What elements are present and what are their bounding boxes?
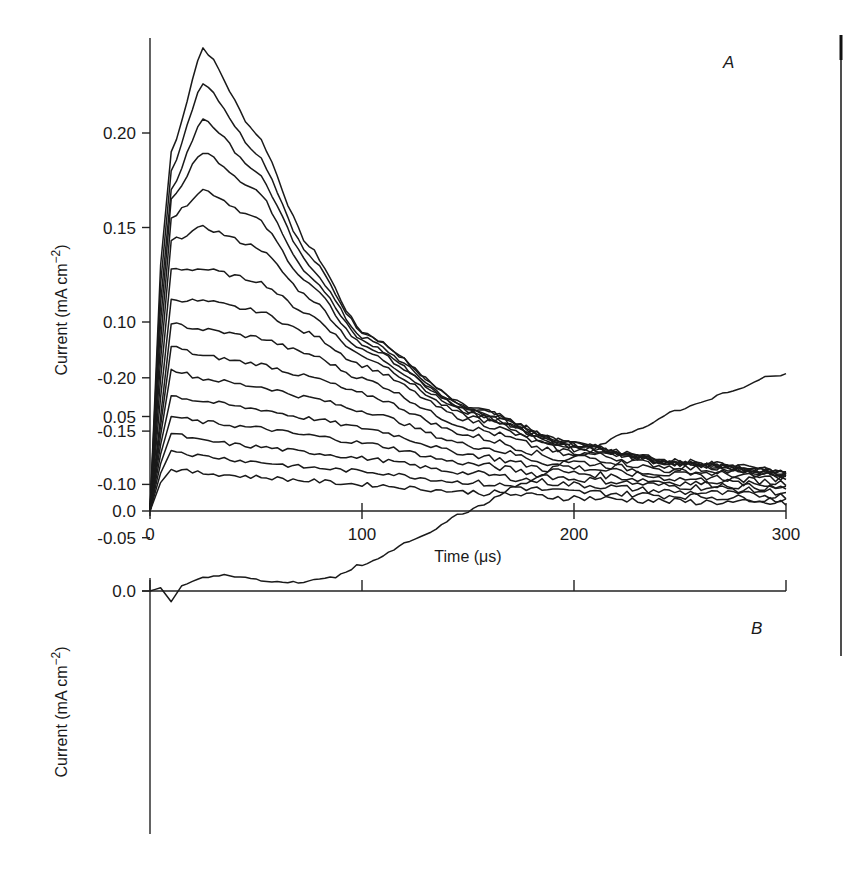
- figure-canvas: 0.00.050.100.150.20 0100200300 A Time (μ…: [0, 0, 843, 869]
- y-tick-label: -0.05: [97, 529, 136, 548]
- x-tick-label: 200: [560, 525, 588, 544]
- panel-a-x-axis-title: Time (μs): [434, 548, 501, 565]
- x-tick-label: 0: [145, 525, 154, 544]
- panel-b-x-ticks: [150, 580, 786, 591]
- panel-b-y-axis-title: Current (mA cm−2): [49, 646, 70, 777]
- y-tick-label: 0.10: [103, 313, 136, 332]
- current-trace: [150, 226, 786, 512]
- current-trace: [150, 153, 786, 511]
- panel-a: 0.00.050.100.150.20 0100200300 A Time (μ…: [49, 38, 800, 565]
- y-tick-label: 0.0: [112, 582, 136, 601]
- panel-a-y-axis-title: Current (mA cm−2): [49, 244, 70, 375]
- panel-a-label: A: [722, 53, 734, 72]
- panel-a-y-ticks: 0.00.050.100.150.20: [103, 124, 150, 521]
- y-tick-label: -0.15: [97, 422, 136, 441]
- superscript: −2: [49, 651, 63, 665]
- panel-b-y-ticks: 0.0-0.05-0.10-0.15-0.20: [97, 369, 150, 601]
- panel-a-traces: [150, 48, 786, 511]
- current-trace: [150, 119, 786, 511]
- y-tick-label: -0.20: [97, 369, 136, 388]
- current-trace: [150, 323, 786, 511]
- y-tick-label: 0.20: [103, 124, 136, 143]
- x-tick-label: 300: [772, 525, 800, 544]
- y-tick-label: 0.15: [103, 219, 136, 238]
- superscript: −2: [49, 249, 63, 263]
- current-trace: [150, 347, 786, 512]
- x-tick-label: 100: [348, 525, 376, 544]
- panel-b-label: B: [751, 619, 762, 638]
- y-tick-label: -0.10: [97, 475, 136, 494]
- y-tick-label: 0.0: [112, 502, 136, 521]
